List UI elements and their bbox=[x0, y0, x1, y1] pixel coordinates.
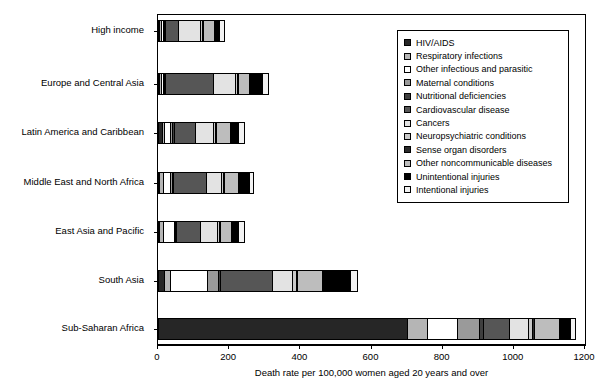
legend-swatch-icon bbox=[404, 53, 411, 60]
x-axis-tick-label-1: 200 bbox=[220, 351, 236, 362]
x-axis-tick bbox=[371, 345, 372, 349]
bar-segment bbox=[231, 123, 240, 143]
x-axis-tick-label-4: 800 bbox=[434, 351, 450, 362]
bar-segment bbox=[221, 271, 273, 291]
legend-swatch-icon bbox=[404, 120, 411, 127]
bar-segment bbox=[171, 271, 208, 291]
legend-item-label: Maternal conditions bbox=[416, 78, 494, 88]
x-axis-tick bbox=[584, 345, 585, 349]
x-axis-tick-label-5: 1000 bbox=[502, 351, 523, 362]
bar-segment bbox=[164, 222, 175, 242]
bar-segment bbox=[535, 319, 559, 339]
x-axis-tick bbox=[442, 345, 443, 349]
legend-swatch-icon bbox=[404, 79, 411, 86]
y-axis-label-3: Middle East and North Africa bbox=[24, 171, 144, 193]
legend-item-3[interactable]: Maternal conditions bbox=[404, 76, 562, 89]
bar-segment bbox=[207, 173, 222, 193]
bar-segment bbox=[239, 222, 243, 242]
legend-item-2[interactable]: Other infectious and parasitic bbox=[404, 63, 562, 76]
bar-segment bbox=[175, 123, 196, 143]
legend-swatch-icon bbox=[404, 93, 411, 100]
stacked-bar-chart: High incomeEurope and Central AsiaLatin … bbox=[0, 0, 613, 387]
bar-segment bbox=[250, 74, 263, 94]
legend-item-1[interactable]: Respiratory infections bbox=[404, 49, 562, 62]
legend-item-0[interactable]: HIV/AIDS bbox=[404, 36, 562, 49]
bar-segment bbox=[201, 222, 218, 242]
legend-item-10[interactable]: Unintentional injuries bbox=[404, 170, 562, 183]
x-axis: 020040060080010001200 bbox=[157, 345, 586, 346]
legend-swatch-icon bbox=[404, 39, 411, 46]
bar-segment bbox=[177, 222, 201, 242]
legend-item-label: Cardiovascular disease bbox=[416, 105, 510, 115]
y-axis-label-6: Sub-Saharan Africa bbox=[62, 317, 144, 339]
bar-segment bbox=[298, 271, 323, 291]
bar-segment bbox=[221, 222, 232, 242]
legend-item-7[interactable]: Neuropsychiatric conditions bbox=[404, 130, 562, 143]
legend-item-6[interactable]: Cancers bbox=[404, 116, 562, 129]
x-axis-tick bbox=[513, 345, 514, 349]
x-axis-tick-label-2: 400 bbox=[291, 351, 307, 362]
bar-4 bbox=[158, 221, 245, 243]
legend-item-11[interactable]: Intentional injuries bbox=[404, 183, 562, 196]
legend-swatch-icon bbox=[404, 133, 411, 140]
legend-item-4[interactable]: Nutritional deficiencies bbox=[404, 90, 562, 103]
bar-segment bbox=[217, 123, 230, 143]
bar-segment bbox=[263, 74, 267, 94]
bar-segment bbox=[174, 173, 208, 193]
bar-segment bbox=[428, 319, 458, 339]
x-axis-title: Death rate per 100,000 women aged 20 yea… bbox=[157, 367, 586, 378]
x-axis-tick-label-3: 600 bbox=[363, 351, 379, 362]
legend-item-5[interactable]: Cardiovascular disease bbox=[404, 103, 562, 116]
y-axis-label-0: High income bbox=[91, 19, 144, 41]
x-axis-tick-label-6: 1200 bbox=[573, 351, 594, 362]
bar-segment bbox=[510, 319, 529, 339]
bar-segment bbox=[179, 21, 201, 41]
legend-swatch-icon bbox=[404, 186, 411, 193]
legend-item-label: Respiratory infections bbox=[416, 51, 503, 61]
legend-item-label: Intentional injuries bbox=[416, 185, 489, 195]
x-axis-tick bbox=[228, 345, 229, 349]
bar-segment bbox=[214, 74, 236, 94]
bar-3 bbox=[158, 172, 254, 194]
bar-segment bbox=[239, 173, 250, 193]
legend-item-label: HIV/AIDS bbox=[416, 38, 455, 48]
y-axis-label-5: South Asia bbox=[99, 269, 144, 291]
legend-item-label: Nutritional deficiencies bbox=[416, 91, 506, 101]
legend-item-label: Sense organ disorders bbox=[416, 145, 507, 155]
legend-swatch-icon bbox=[404, 106, 411, 113]
bar-segment bbox=[196, 123, 214, 143]
x-axis-tick bbox=[157, 345, 158, 349]
bar-segment bbox=[159, 319, 408, 339]
legend-swatch-icon bbox=[404, 66, 411, 73]
bar-segment bbox=[351, 271, 357, 291]
bar-segment bbox=[239, 123, 244, 143]
legend-item-label: Cancers bbox=[416, 118, 450, 128]
bar-segment bbox=[273, 271, 294, 291]
bar-segment bbox=[458, 319, 480, 339]
bar-segment bbox=[484, 319, 510, 339]
legend-item-label: Unintentional injuries bbox=[416, 172, 500, 182]
bar-segment bbox=[220, 21, 223, 41]
bar-segment bbox=[204, 21, 215, 41]
bar-2 bbox=[158, 122, 245, 144]
bar-segment bbox=[323, 271, 351, 291]
y-axis-labels: High incomeEurope and Central AsiaLatin … bbox=[0, 14, 152, 345]
bar-6 bbox=[158, 318, 576, 340]
bar-0 bbox=[158, 20, 225, 42]
legend-item-8[interactable]: Sense organ disorders bbox=[404, 143, 562, 156]
bar-1 bbox=[158, 73, 269, 95]
y-axis-label-1: Europe and Central Asia bbox=[41, 72, 144, 94]
legend-swatch-icon bbox=[404, 173, 411, 180]
legend-item-label: Other infectious and parasitic bbox=[416, 64, 533, 74]
bar-segment bbox=[560, 319, 571, 339]
bar-segment bbox=[166, 21, 180, 41]
legend-item-label: Other noncommunicable diseases bbox=[416, 158, 552, 168]
bar-5 bbox=[158, 270, 358, 292]
bar-segment bbox=[166, 74, 214, 94]
bar-segment bbox=[225, 173, 239, 193]
legend-item-9[interactable]: Other noncommunicable diseases bbox=[404, 157, 562, 170]
bar-segment bbox=[232, 222, 240, 242]
x-axis-tick-label-0: 0 bbox=[154, 351, 159, 362]
bar-segment bbox=[208, 271, 219, 291]
legend-item-label: Neuropsychiatric conditions bbox=[416, 131, 526, 141]
